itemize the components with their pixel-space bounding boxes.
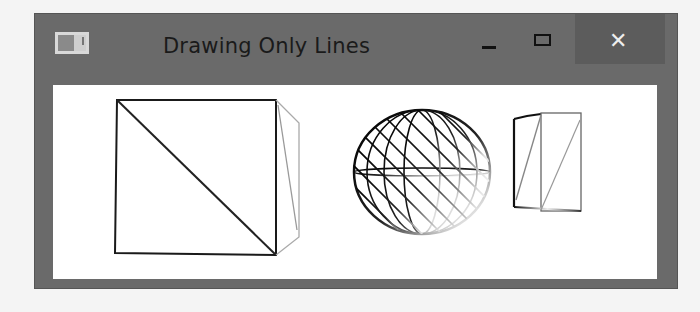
window-title: Drawing Only Lines <box>163 34 370 58</box>
minimize-button[interactable] <box>465 14 515 64</box>
wireframe-scene <box>53 85 657 279</box>
prism-wireframe <box>514 113 581 211</box>
sphere-wireframe <box>353 105 493 245</box>
maximize-icon <box>534 34 551 46</box>
close-icon: ✕ <box>609 28 627 53</box>
maximize-button[interactable] <box>521 14 571 64</box>
close-button[interactable]: ✕ <box>575 14 665 64</box>
minimize-icon <box>482 46 496 49</box>
app-window: Drawing Only Lines ✕ <box>35 14 677 288</box>
cube-wireframe <box>115 100 299 255</box>
title-bar[interactable]: Drawing Only Lines ✕ <box>35 14 677 84</box>
window-app-icon[interactable] <box>55 32 89 54</box>
app-icon-pane <box>74 35 86 51</box>
drawing-canvas <box>53 85 657 279</box>
